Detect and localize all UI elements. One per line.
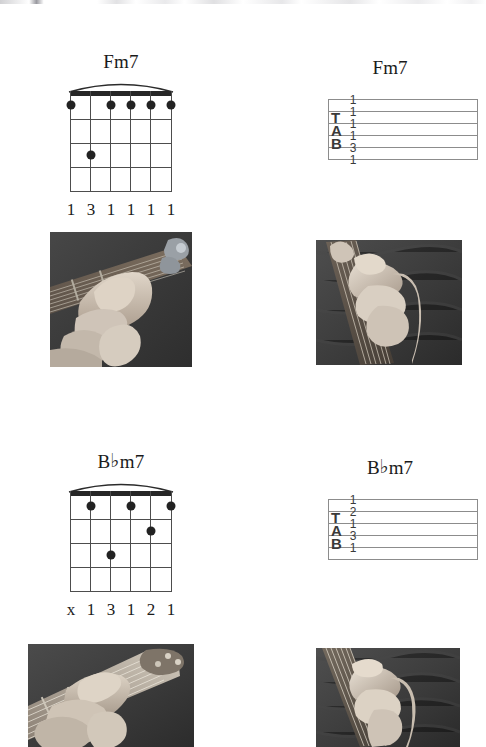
fretboard-bbm7: x 1 3 1 2 1 <box>36 479 206 599</box>
chord-diagram-bbm7: B♭m7 <box>36 452 206 599</box>
tab-diagram-fm7: Fm7 T A B 1 1 1 1 3 1 <box>300 58 480 171</box>
photo-bbm7-side <box>316 648 460 747</box>
tab-diagram-bbm7: B♭m7 T A B 1 2 1 3 1 <box>300 458 480 571</box>
fingering-digit: 1 <box>61 201 81 218</box>
finger-dot <box>67 101 76 110</box>
scan-edge-artifact <box>0 0 486 4</box>
photo-fm7-side-image <box>316 240 462 365</box>
tab-string-line <box>328 559 478 560</box>
finger-dot <box>127 502 136 511</box>
photo-bbm7-side-image <box>316 648 460 747</box>
tab-barline-end <box>477 99 478 160</box>
chord-suffix: m7 <box>389 457 413 478</box>
tab-title-fm7: Fm7 <box>300 58 480 77</box>
finger-dot <box>87 151 96 160</box>
finger-dot <box>147 101 156 110</box>
tab-letter-B: B <box>331 538 342 549</box>
fingering-digit: x <box>61 601 81 618</box>
string-line <box>110 491 111 592</box>
fingering-row-fm7: 1 3 1 1 1 1 <box>61 201 181 218</box>
chord-root: B <box>367 457 380 478</box>
nut-bar <box>70 91 172 96</box>
fret-line <box>70 591 172 592</box>
tab-barline-start <box>328 499 329 560</box>
string-line <box>70 491 71 592</box>
fingering-digit: 3 <box>101 601 121 618</box>
chord-title-bbm7: B♭m7 <box>36 452 206 471</box>
tab-fret-number: 1 <box>350 542 357 554</box>
string-line <box>90 91 91 192</box>
flat-symbol-icon: ♭ <box>110 449 119 471</box>
photo-fm7-front-image <box>50 232 192 367</box>
chord-title-fm7: Fm7 <box>36 52 206 71</box>
photo-fm7-side <box>316 240 462 365</box>
fretboard-fm7: 1 3 1 1 1 1 <box>36 79 206 199</box>
fingering-digit: 1 <box>101 201 121 218</box>
fingering-digit: 2 <box>141 601 161 618</box>
chord-suffix: m7 <box>120 451 145 472</box>
nut-bar <box>70 491 172 496</box>
finger-dot <box>107 101 116 110</box>
finger-dot <box>167 101 176 110</box>
photo-bbm7-angled <box>28 644 194 747</box>
fret-line <box>70 143 172 144</box>
tab-barline-end <box>477 499 478 560</box>
fingering-row-bbm7: x 1 3 1 2 1 <box>61 601 181 618</box>
fingering-digit: 1 <box>161 201 181 218</box>
finger-dot <box>147 527 156 536</box>
finger-dot <box>107 551 116 560</box>
fret-line <box>70 191 172 192</box>
fingering-digit: 3 <box>81 201 101 218</box>
finger-dot <box>167 502 176 511</box>
chord-root: B <box>97 451 110 472</box>
tab-staff-bbm7: T A B 1 2 1 3 1 <box>300 499 480 571</box>
flat-symbol-icon: ♭ <box>380 455 389 477</box>
fret-line <box>70 543 172 544</box>
tab-barline-start <box>328 99 329 160</box>
tab-staff-fm7: T A B 1 1 1 1 3 1 <box>300 99 480 171</box>
fingering-digit: 1 <box>161 601 181 618</box>
photo-bbm7-angled-image <box>28 644 194 747</box>
finger-dot <box>87 502 96 511</box>
fret-line <box>70 567 172 568</box>
photo-fm7-front <box>50 232 192 367</box>
tab-title-bbm7: B♭m7 <box>300 458 480 477</box>
finger-dot <box>127 101 136 110</box>
fret-line <box>70 119 172 120</box>
tab-letter-B: B <box>331 138 342 149</box>
chord-diagram-fm7: Fm7 <box>36 52 206 199</box>
fret-line <box>70 519 172 520</box>
chord-sheet-page: Fm7 <box>0 0 486 747</box>
fingering-digit: 1 <box>121 201 141 218</box>
fingering-digit: 1 <box>141 201 161 218</box>
fingering-digit: 1 <box>81 601 101 618</box>
fret-line <box>70 167 172 168</box>
tab-fret-number: 1 <box>350 154 357 166</box>
fingering-digit: 1 <box>121 601 141 618</box>
string-line <box>150 491 151 592</box>
fretboard-grid-bbm7 <box>70 491 172 591</box>
fretboard-grid-fm7 <box>70 91 172 191</box>
